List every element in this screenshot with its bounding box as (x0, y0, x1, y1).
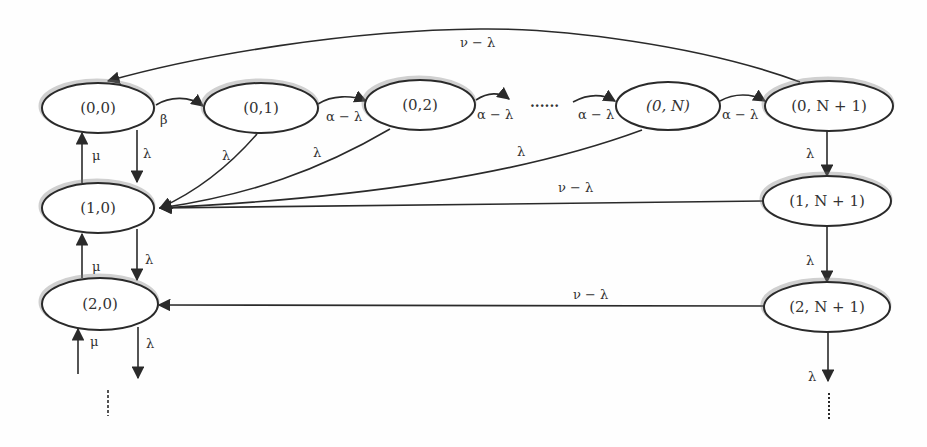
edge-label-n01-n02: α − λ (326, 109, 362, 124)
edge-n0N1-to-n00 (108, 29, 800, 82)
node-label-0-2: (0,2) (402, 96, 438, 114)
node-label-0-N1: (0, N + 1) (791, 97, 867, 115)
edge-label-n20-down: λ (146, 336, 154, 351)
node-1-0: (1,0) (41, 181, 154, 233)
edge-label-n30-n20: μ (90, 334, 98, 349)
edge-label-n1N1-n2N1: λ (806, 253, 814, 268)
node-label-0-0: (0,0) (80, 99, 116, 117)
edge-label-n00-n10: λ (143, 146, 151, 161)
node-label-0-N: (0, N) (646, 97, 690, 115)
node-0-0: (0,0) (41, 81, 154, 133)
edge-label-n0N-n0N1: α − λ (722, 107, 758, 122)
edge-label-dots-n0N: α − λ (578, 107, 614, 122)
ellipsis-horizontal: ...... (530, 94, 559, 110)
node-0-N: (0, N) (616, 82, 720, 130)
edge-n2N1-to-n20 (159, 305, 764, 306)
edge-n0N-to-n0N1 (720, 95, 765, 101)
node-2-N1: (2, N + 1) (763, 280, 890, 332)
edge-label-n02-dots: α − λ (477, 107, 513, 122)
node-label-1-N1: (1, N + 1) (789, 192, 865, 210)
node-label-2-N1: (2, N + 1) (789, 298, 865, 316)
edge-label-n20-n10: μ (92, 259, 100, 274)
edge-dots-to-n0N (573, 96, 615, 102)
node-label-2-0: (2,0) (82, 295, 118, 313)
edge-label-n02-n10: λ (313, 145, 321, 160)
edge-n00-to-n01 (156, 98, 203, 106)
edge-n01-to-n10 (160, 134, 257, 208)
node-0-1: (0,1) (203, 81, 318, 133)
edge-n02-to-n10 (160, 129, 390, 208)
edge-label-n10-n20: λ (145, 252, 153, 267)
edge-label-n2N1-n20: ν − λ (573, 287, 608, 302)
edge-n01-to-n02 (318, 97, 366, 104)
node-2-0: (2,0) (41, 276, 158, 330)
node-label-0-1: (0,1) (243, 99, 279, 117)
edge-label-n2N1-down: λ (808, 369, 816, 384)
state-transition-diagram: ν − λ β α − λ α − λ ...... α − λ α − λ λ… (0, 0, 927, 447)
diagram-canvas: ν − λ β α − λ α − λ ...... α − λ α − λ λ… (0, 0, 927, 447)
edge-label-n1N1-n10: ν − λ (558, 180, 593, 195)
edge-label-n10-n00: μ (92, 148, 100, 163)
edge-n02-to-dots (476, 94, 509, 100)
edge-n0N-to-n10 (160, 130, 642, 208)
edge-label-beta: β (160, 112, 168, 127)
edge-label-n0N-n10: λ (517, 144, 525, 159)
edge-label-n0N1-n1N1: λ (806, 146, 814, 161)
node-0-2: (0,2) (364, 78, 475, 130)
node-0-N1: (0, N + 1) (764, 79, 893, 131)
node-1-N1: (1, N + 1) (762, 174, 891, 226)
edge-label-n01-n10: λ (222, 148, 230, 163)
node-label-1-0: (1,0) (80, 199, 116, 217)
edge-label-top-return: ν − λ (460, 35, 495, 50)
